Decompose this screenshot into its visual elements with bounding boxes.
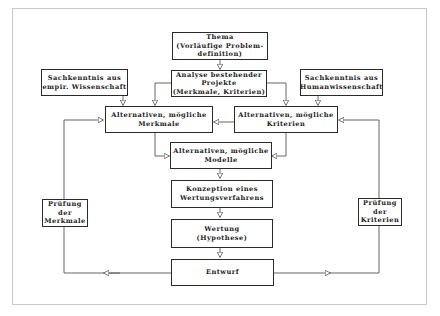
alternativen-modelle-box: Alternativen, mögliche Modelle [170,142,272,169]
alternativen-merkmale-box: Alternativen, mögliche Merkmale [105,106,213,133]
konzeption-label: Konzeption eines Wertungsverfahrens [180,185,264,202]
alternativen-kriterien-box: Alternativen, mögliche Kriterien [234,106,338,133]
entwurf-label: Entwurf [206,268,239,277]
analyse-label: Analyse bestehender Projekte (Merkmale, … [173,71,266,97]
wertung-box: Wertung (Hypothese) [171,219,273,248]
sachkenntnis-human-box: Sachkenntnis aus Humanwissenschaft [300,69,383,96]
sachkenntnis-empir-label: Sachkenntnis aus empir. Wissenschaft [42,74,126,91]
sachkenntnis-human-label: Sachkenntnis aus Humanwissenschaft [300,74,383,91]
sachkenntnis-empir-box: Sachkenntnis aus empir. Wissenschaft [41,69,128,96]
alternativen-kriterien-label: Alternativen, mögliche Kriterien [238,111,333,128]
entwurf-box: Entwurf [171,259,274,286]
alternativen-modelle-label: Alternativen, mögliche Modelle [173,147,268,164]
pruefung-kriterien-label: Prüfung der Kriterien [361,199,399,225]
analyse-box: Analyse bestehender Projekte (Merkmale, … [171,70,267,97]
konzeption-box: Konzeption eines Wertungsverfahrens [171,180,273,208]
alternativen-merkmale-label: Alternativen, mögliche Merkmale [111,111,206,128]
pruefung-merkmale-box: Prüfung der Merkmale [42,199,88,227]
pruefung-kriterien-box: Prüfung der Kriterien [358,198,402,226]
wertung-label: Wertung (Hypothese) [197,225,248,242]
thema-label: Thema (Vorläufige Problem- definition) [176,33,263,59]
pruefung-merkmale-label: Prüfung der Merkmale [44,200,86,226]
thema-box: Thema (Vorläufige Problem- definition) [172,32,268,60]
